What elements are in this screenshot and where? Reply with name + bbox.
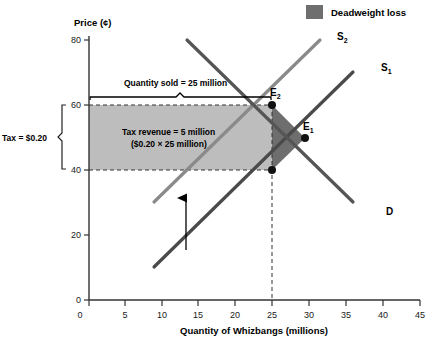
x-tick-label-10: 10 — [157, 310, 167, 320]
tax-revenue-label-line1: Tax revenue = 5 million — [122, 127, 215, 137]
x-axis-ticks — [89, 300, 420, 306]
x-tick-label-40: 40 — [378, 310, 388, 320]
y-axis-tick-labels: 0 20 40 60 80 — [71, 35, 81, 305]
y-tick-label-60: 60 — [71, 100, 81, 110]
label-s1: S1 — [381, 62, 392, 75]
tax-revenue-label-line2: ($0.20 × 25 million) — [131, 139, 207, 149]
label-demand: D — [386, 206, 393, 217]
legend-label-deadweight-loss: Deadweight loss — [331, 7, 406, 18]
x-tick-label-25: 25 — [267, 310, 277, 320]
x-axis-tick-labels: 0 5 10 15 20 25 30 35 40 45 — [77, 310, 425, 320]
legend: Deadweight loss — [306, 5, 406, 19]
y-tick-label-80: 80 — [71, 35, 81, 45]
label-e1: E1 — [303, 121, 314, 134]
y-tick-label-0: 0 — [76, 295, 81, 305]
y-axis-title: Price (¢) — [74, 17, 112, 28]
chart-svg: Deadweight loss S2 S — [0, 0, 434, 339]
point-seller-price — [268, 166, 276, 174]
x-axis-title: Quantity of Whizbangs (millions) — [180, 325, 328, 336]
y-tick-label-20: 20 — [71, 230, 81, 240]
x-tick-label-30: 30 — [304, 310, 314, 320]
quantity-sold-label: Quantity sold = 25 million — [124, 78, 227, 88]
x-tick-label-45: 45 — [415, 310, 425, 320]
label-s2: S2 — [337, 31, 348, 44]
x-tick-label-5: 5 — [122, 310, 127, 320]
tax-bracket — [58, 105, 66, 169]
x-tick-label-0: 0 — [77, 310, 82, 320]
x-tick-label-20: 20 — [230, 310, 240, 320]
y-axis-ticks — [84, 40, 89, 300]
x-tick-label-15: 15 — [193, 310, 203, 320]
point-e2 — [268, 101, 276, 109]
y-tick-label-40: 40 — [71, 165, 81, 175]
legend-swatch-deadweight-loss — [306, 5, 323, 19]
economics-tax-incidence-chart: Deadweight loss S2 S — [0, 0, 434, 339]
tax-bracket-label: Tax = $0.20 — [2, 133, 47, 143]
point-e1 — [301, 134, 309, 142]
x-tick-label-35: 35 — [341, 310, 351, 320]
